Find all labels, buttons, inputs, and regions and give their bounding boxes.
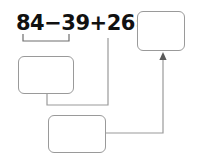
operator-minus: − [44, 11, 61, 35]
connector-bottom-box-to-result-box [106, 59, 163, 133]
operand-39: 39 [61, 11, 89, 35]
operator-plus: + [90, 11, 107, 35]
answer-box-left[interactable] [18, 56, 74, 94]
operand-26: 26 [107, 11, 135, 35]
arrowhead-icon [159, 52, 166, 60]
bracket-under-84-minus-39 [23, 34, 69, 41]
operand-84: 84 [16, 11, 44, 35]
math-flow-diagram: 84−39+26= [0, 0, 201, 160]
expression-line: 84−39+26= [16, 11, 152, 35]
answer-box-result[interactable] [137, 11, 185, 51]
answer-box-bottom[interactable] [48, 115, 106, 153]
